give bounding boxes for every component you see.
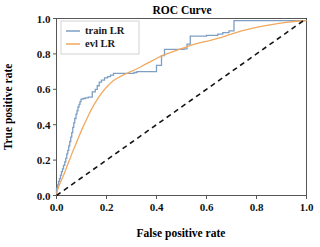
chart-legend: train LR evl LR	[61, 21, 139, 54]
x-axis-title: False positive rate	[137, 227, 226, 240]
y-tick-label: 1.0	[37, 13, 51, 25]
x-tick-label: 0.4	[150, 201, 164, 213]
y-axis-title: True positive rate	[2, 64, 15, 151]
x-tick-label: 0.2	[100, 201, 114, 213]
y-tick-label: 0.0	[37, 190, 51, 202]
chart-canvas: ROC Curve 0.00.20.40.60.81.00.00.20.40.6…	[0, 0, 320, 247]
x-tick-label: 0.6	[200, 201, 214, 213]
y-tick-label: 0.2	[37, 154, 51, 166]
x-tick-label: 0.0	[50, 201, 64, 213]
roc-curve-figure: ROC Curve 0.00.20.40.60.81.00.00.20.40.6…	[0, 0, 320, 247]
x-tick-label: 0.8	[250, 201, 264, 213]
y-tick-label: 0.4	[37, 119, 51, 131]
y-tick-label: 0.8	[37, 48, 51, 60]
chart-title: ROC Curve	[152, 4, 211, 16]
legend-label-train-lr: train LR	[85, 25, 125, 36]
x-tick-label: 1.0	[300, 201, 314, 213]
legend-label-evl-lr: evl LR	[85, 38, 115, 49]
y-tick-label: 0.6	[37, 83, 51, 95]
